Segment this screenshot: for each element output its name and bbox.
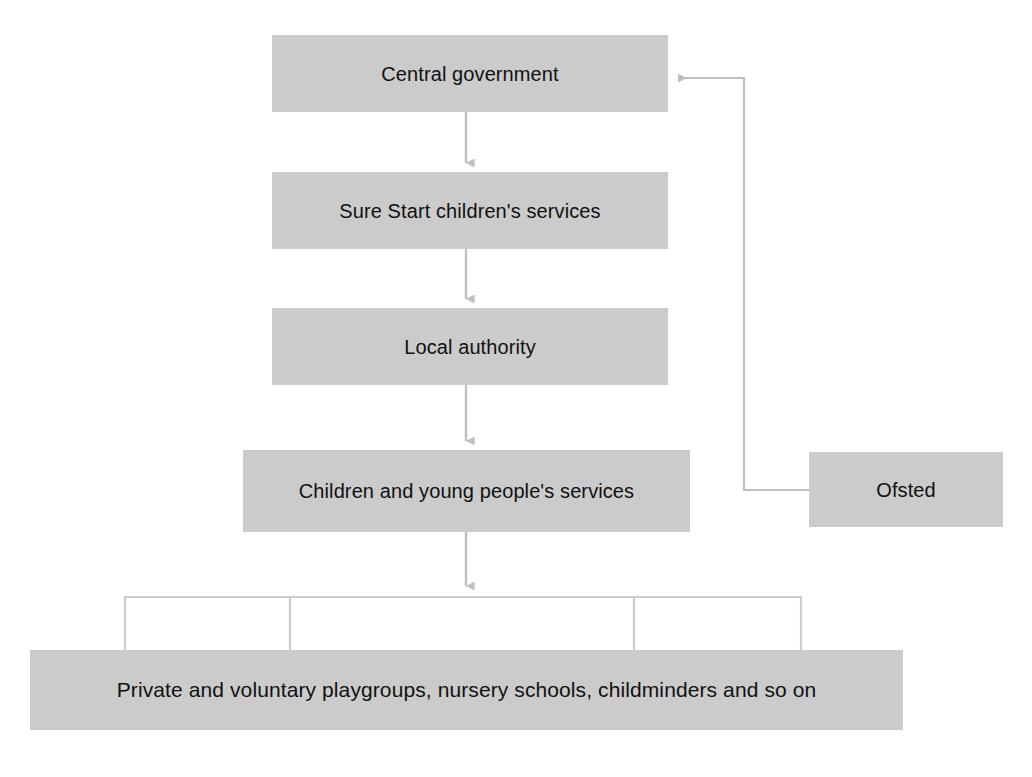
node-children-young-people-services-label: Children and young people's services xyxy=(299,480,634,502)
node-local-authority[interactable]: Local authority xyxy=(272,308,668,385)
connector-ofsted-to-central xyxy=(678,78,809,490)
node-central-government-label: Central government xyxy=(381,63,558,85)
node-central-government[interactable]: Central government xyxy=(272,35,668,112)
node-sure-start-label: Sure Start children's services xyxy=(339,200,600,222)
node-ofsted[interactable]: Ofsted xyxy=(809,452,1003,527)
node-ofsted-label: Ofsted xyxy=(876,479,936,501)
node-children-young-people-services[interactable]: Children and young people's services xyxy=(243,450,690,532)
node-sure-start[interactable]: Sure Start children's services xyxy=(272,172,668,249)
connector-children-to-providers xyxy=(124,532,802,650)
flowchart-diagram: Central government Sure Start children's… xyxy=(0,0,1032,777)
node-providers[interactable]: Private and voluntary playgroups, nurser… xyxy=(30,650,903,730)
node-providers-label: Private and voluntary playgroups, nurser… xyxy=(117,678,817,701)
node-local-authority-label: Local authority xyxy=(404,336,536,358)
